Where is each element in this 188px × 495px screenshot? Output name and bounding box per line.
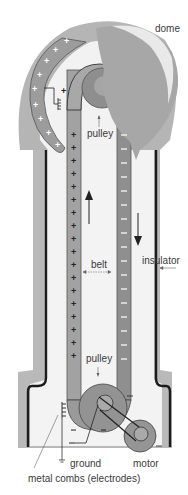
svg-text:+: +: [71, 273, 76, 283]
svg-text:+: +: [55, 140, 60, 150]
dome-label: dome: [155, 23, 180, 34]
svg-text:+: +: [71, 260, 76, 270]
svg-text:+: +: [71, 143, 76, 153]
svg-text:+: +: [33, 100, 38, 110]
svg-text:+: +: [71, 182, 76, 192]
insulator-pointer: [160, 267, 176, 270]
upper-comb-plus: +: [61, 86, 66, 96]
svg-text:+: +: [71, 312, 76, 322]
insulator-label: insulator: [142, 255, 180, 266]
ground-symbol-icon: [59, 460, 65, 462]
svg-text:+: +: [71, 234, 76, 244]
svg-text:+: +: [71, 351, 76, 361]
top-pulley-label: pulley: [87, 128, 113, 139]
svg-text:+: +: [71, 299, 76, 309]
svg-text:+: +: [38, 114, 43, 124]
svg-text:+: +: [71, 247, 76, 257]
bottom-pulley-label: pulley: [86, 353, 112, 364]
metal-combs-label: metal combs (electrodes): [28, 473, 140, 484]
svg-text:+: +: [71, 130, 76, 140]
motor-label: motor: [133, 458, 159, 469]
svg-text:+: +: [71, 195, 76, 205]
belt-label: belt: [91, 259, 107, 270]
svg-text:+: +: [53, 45, 58, 55]
ground-label: ground: [70, 458, 101, 469]
svg-text:+: +: [44, 56, 49, 66]
svg-text:+: +: [71, 208, 76, 218]
svg-text:+: +: [32, 84, 37, 94]
svg-text:+: +: [64, 36, 69, 46]
svg-text:+: +: [71, 338, 76, 348]
svg-text:+: +: [71, 169, 76, 179]
svg-text:+: +: [71, 286, 76, 296]
motor-hub: [134, 427, 148, 441]
svg-text:+: +: [71, 221, 76, 231]
svg-text:+: +: [71, 325, 76, 335]
svg-text:+: +: [46, 128, 51, 138]
van-de-graaff-diagram: + + + + + + + + + + +++ +++ +++ +++ +++ …: [0, 0, 188, 495]
svg-text:+: +: [37, 70, 42, 80]
svg-text:+: +: [71, 156, 76, 166]
